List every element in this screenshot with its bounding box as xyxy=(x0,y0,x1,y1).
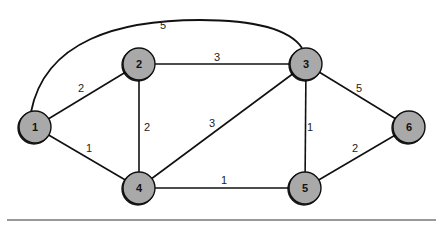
node-1-label: 1 xyxy=(32,121,38,133)
edge-weight-5-6: 2 xyxy=(352,142,358,154)
edge-1-2 xyxy=(35,64,139,127)
edge-weight-3-6: 5 xyxy=(356,82,362,94)
edge-4-3 xyxy=(139,64,306,188)
edge-weight-4-3: 3 xyxy=(209,117,215,129)
edge-weight-1-3: 5 xyxy=(160,19,166,31)
edge-weight-4-5: 1 xyxy=(221,174,227,186)
node-6-label: 6 xyxy=(406,121,412,133)
edge-weight-1-2: 2 xyxy=(78,82,84,94)
node-4-label: 4 xyxy=(136,182,143,194)
edge-weight-2-3: 3 xyxy=(214,51,220,63)
node-3-label: 3 xyxy=(303,58,309,70)
edge-1-4 xyxy=(35,127,139,188)
edge-3-6 xyxy=(306,64,409,127)
node-5-label: 5 xyxy=(302,182,308,194)
edge-weight-1-4: 1 xyxy=(86,142,92,154)
edge-5-6 xyxy=(305,127,409,188)
edge-weight-2-4: 2 xyxy=(144,121,150,133)
edge-1-3 xyxy=(31,20,302,112)
node-2-label: 2 xyxy=(136,58,142,70)
edge-weight-3-5: 1 xyxy=(307,121,313,133)
edge-3-5 xyxy=(305,64,306,188)
graph-diagram: 5 2 3 5 2 3 1 1 1 2 1 2 3 4 5 6 xyxy=(0,0,442,228)
